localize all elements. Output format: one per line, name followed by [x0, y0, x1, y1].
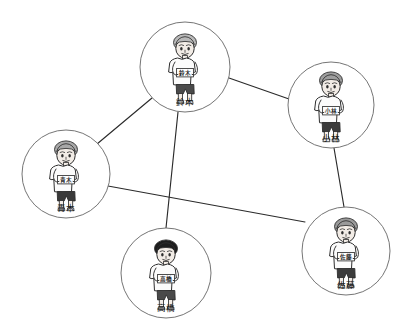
shirt-name-text: 青木 — [60, 176, 72, 184]
node-label-kobayashi: 小林 — [322, 133, 340, 143]
shirt-name-text: 鈴木 — [179, 69, 191, 77]
node-kobayashi[interactable]: 小林小林 — [288, 62, 374, 148]
shirt-name-text: 小林 — [325, 107, 337, 115]
node-label-suzuki: 鈴木 — [176, 97, 194, 107]
eye-right — [187, 47, 190, 50]
edge-aoki-sato — [108, 186, 305, 222]
node-label-sato: 佐藤 — [337, 280, 355, 290]
node-sato[interactable]: 佐藤佐藤 — [302, 207, 390, 295]
node-label-aoki: 青木 — [57, 203, 75, 213]
eye-right — [68, 154, 71, 157]
graph-canvas: 鈴木鈴木小林小林青木青木高橋高橋佐藤佐藤 — [0, 0, 400, 335]
eye-left — [61, 154, 64, 157]
node-takahashi[interactable]: 高橋高橋 — [121, 228, 211, 318]
eye-left — [161, 253, 164, 256]
edge-suzuki-aoki — [97, 98, 152, 144]
shirt-name-text: 佐藤 — [339, 253, 352, 261]
eye-left — [341, 231, 344, 234]
nodes-layer: 鈴木鈴木小林小林青木青木高橋高橋佐藤佐藤 — [22, 22, 390, 318]
node-suzuki[interactable]: 鈴木鈴木 — [140, 22, 230, 112]
edge-suzuki-takahashi — [166, 112, 178, 228]
node-label-takahashi: 高橋 — [157, 303, 175, 313]
eye-right — [348, 231, 351, 234]
shirt-name-text: 高橋 — [160, 275, 172, 283]
node-aoki[interactable]: 青木青木 — [22, 130, 110, 218]
eye-right — [333, 85, 336, 88]
network-diagram: 鈴木鈴木小林小林青木青木高橋高橋佐藤佐藤 — [0, 0, 400, 335]
edge-suzuki-kobayashi — [229, 78, 289, 99]
edge-kobayashi-sato — [334, 148, 344, 207]
eye-right — [168, 253, 171, 256]
eye-left — [180, 47, 183, 50]
eye-left — [326, 85, 329, 88]
